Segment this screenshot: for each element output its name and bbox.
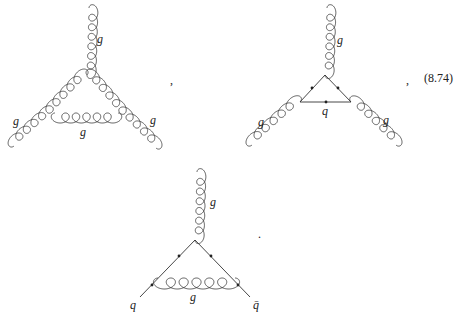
d3-antiquark-label: q̄ (253, 298, 259, 312)
d1-top-gluon-label: g (97, 32, 103, 46)
d2-arrow-dot-right (337, 87, 340, 90)
d2-top-gluon-label: g (337, 33, 343, 47)
d3-top-gluon (195, 169, 206, 244)
d1-left-gluon-label: g (13, 114, 19, 128)
d1-internal-gluon-label: g (80, 125, 86, 139)
d2-right-external-gluon (350, 96, 402, 146)
diagram-vertex-correction (140, 169, 250, 297)
d2-left-gluon-label: g (258, 115, 264, 129)
d3-top-gluon-label: g (210, 195, 216, 209)
d3-internal-gluon (153, 278, 239, 289)
feynman-diagrams-canvas: g g g g , g g g q , (8.74) g q g q̄ . (0, 0, 463, 320)
d3-arrow-dot-upper-left (178, 255, 181, 258)
d1-right-gluon-label: g (150, 113, 156, 127)
d3-quark-label: q (130, 298, 136, 312)
d2-top-gluon (325, 5, 336, 79)
d2-internal-quark-label: q (322, 104, 328, 118)
d3-arrow-dot-lower-left (151, 284, 154, 287)
diagram-quark-loop (246, 5, 402, 146)
separator-comma-1: , (170, 73, 173, 87)
separator-period: . (258, 227, 261, 241)
separator-comma-2: , (406, 73, 409, 87)
d2-arrow-dot-left (311, 87, 314, 90)
d2-arrow-dot-bottom (325, 101, 328, 104)
d2-right-gluon-label: g (383, 113, 389, 127)
d1-loop-bottom-gluon (51, 113, 121, 123)
d2-left-external-gluon (246, 96, 301, 146)
equation-number: (8.74) (424, 71, 453, 85)
d3-antiquark-line (195, 240, 250, 297)
d3-arrow-dot-upper-right (210, 255, 213, 258)
d3-internal-gluon-label: g (190, 290, 196, 304)
